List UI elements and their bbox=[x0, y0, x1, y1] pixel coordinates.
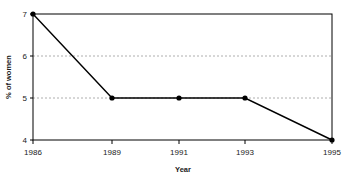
data-point-1995 bbox=[329, 137, 334, 142]
xtick-label-1989: 1989 bbox=[103, 148, 121, 157]
data-point-1989 bbox=[109, 95, 114, 100]
chart-figure: 7 6 5 4 1986 1989 1991 1993 1995 Year % … bbox=[0, 0, 352, 178]
xtick-label-1991: 1991 bbox=[170, 148, 188, 157]
xtick-label-1995: 1995 bbox=[323, 148, 341, 157]
line-chart: 7 6 5 4 1986 1989 1991 1993 1995 Year % … bbox=[0, 0, 352, 178]
data-point-1993 bbox=[242, 95, 247, 100]
plot-background bbox=[33, 14, 332, 140]
x-axis-title: Year bbox=[175, 165, 191, 174]
ytick-label-6: 6 bbox=[23, 52, 28, 61]
ytick-label-4: 4 bbox=[23, 136, 28, 145]
ytick-label-5: 5 bbox=[23, 94, 28, 103]
data-point-1991 bbox=[176, 95, 181, 100]
xtick-label-1993: 1993 bbox=[236, 148, 254, 157]
y-axis-title: % of women bbox=[4, 55, 13, 99]
xtick-label-1986: 1986 bbox=[24, 148, 42, 157]
ytick-label-7: 7 bbox=[23, 10, 28, 19]
data-point-1986 bbox=[30, 11, 35, 16]
